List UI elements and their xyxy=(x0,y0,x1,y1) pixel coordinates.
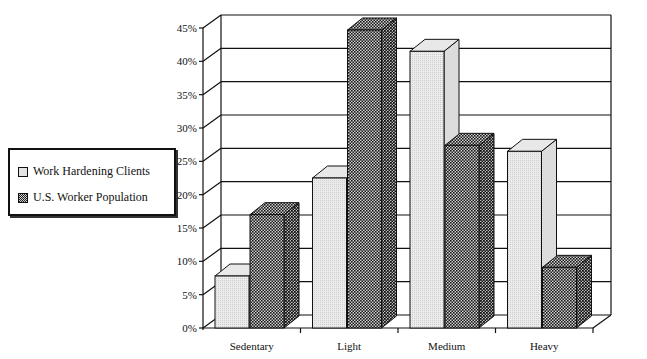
legend-item-us-worker-population: U.S. Worker Population xyxy=(18,190,148,205)
legend: Work Hardening Clients U.S. Worker Popul… xyxy=(8,148,176,216)
y-tick-label: 5% xyxy=(182,289,197,301)
legend-swatch-light-icon xyxy=(18,167,28,177)
legend-item-work-hardening-clients: Work Hardening Clients xyxy=(18,164,150,179)
y-tick-label: 30% xyxy=(177,122,197,134)
legend-swatch-dark-icon xyxy=(18,193,28,203)
y-tick-label: 45% xyxy=(177,22,197,34)
y-tick-label: 20% xyxy=(177,189,197,201)
legend-label: Work Hardening Clients xyxy=(33,164,150,179)
bar-heavy-us-worker-population xyxy=(543,255,592,328)
y-tick-label: 10% xyxy=(177,255,197,267)
bar-sedentary-us-worker-population xyxy=(250,203,299,328)
y-tick-label: 15% xyxy=(177,222,197,234)
y-tick-label: 25% xyxy=(177,155,197,167)
y-tick-label: 35% xyxy=(177,89,197,101)
x-category-label: Medium xyxy=(428,340,466,352)
legend-label: U.S. Worker Population xyxy=(33,190,148,205)
x-category-label: Sedentary xyxy=(230,340,274,352)
x-category-label: Heavy xyxy=(530,340,559,352)
x-category-label: Light xyxy=(337,340,361,352)
y-tick-label: 0% xyxy=(182,322,197,334)
y-tick-label: 40% xyxy=(177,55,197,67)
bar-light-us-worker-population xyxy=(348,18,397,328)
bar-medium-us-worker-population xyxy=(445,133,494,328)
